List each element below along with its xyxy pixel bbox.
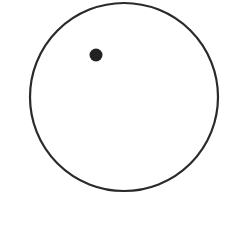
background	[0, 0, 240, 233]
diagram-canvas	[0, 0, 240, 233]
point-dot	[90, 49, 103, 62]
